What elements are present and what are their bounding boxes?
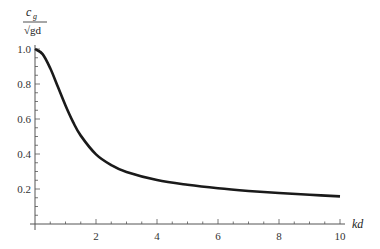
x-tick-label: 4 xyxy=(154,230,160,242)
x-tick-label: 8 xyxy=(276,230,282,242)
y-tick-label: 0.8 xyxy=(17,78,31,90)
x-tick-label: 10 xyxy=(335,230,347,242)
y-label-denominator: √gd xyxy=(24,24,42,36)
x-axis-label: kd xyxy=(352,217,364,231)
data-line xyxy=(35,49,340,196)
y-tick-label: 0.2 xyxy=(17,183,31,195)
x-tick-label: 6 xyxy=(215,230,221,242)
y-tick-label: 0.6 xyxy=(17,113,31,125)
y-axis-label: c g √gd xyxy=(23,5,47,36)
x-ticks: 246810 xyxy=(50,219,346,242)
y-ticks: 0.20.40.60.81.0 xyxy=(17,43,40,215)
x-tick-label: 2 xyxy=(93,230,99,242)
y-label-subscript: g xyxy=(33,12,37,21)
y-tick-label: 0.4 xyxy=(17,148,31,160)
chart: c g √gd 0.20.40.60.81.0 246810 kd xyxy=(0,0,380,249)
y-tick-label: 1.0 xyxy=(17,43,31,55)
y-label-numerator: c xyxy=(26,5,32,19)
